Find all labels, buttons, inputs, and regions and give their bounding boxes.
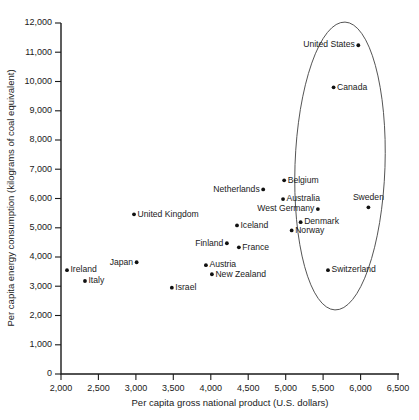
data-point-marker — [225, 241, 229, 245]
data-point: Italy — [83, 275, 105, 285]
data-point-marker — [135, 260, 139, 264]
data-point-label: Switzerland — [331, 264, 376, 274]
y-tick-label: 12,000 — [24, 17, 52, 27]
data-point-marker — [281, 197, 285, 201]
data-point-label: Norway — [295, 225, 325, 235]
data-point: Sweden — [353, 192, 384, 210]
data-point-marker — [237, 245, 241, 249]
x-tick-label: 2,000 — [50, 383, 73, 393]
data-point: Australia — [281, 193, 320, 203]
y-tick-label: 0 — [47, 368, 52, 378]
y-tick-label: 1,000 — [29, 339, 52, 349]
data-point: Ireland — [65, 264, 97, 274]
x-tick-label: 4,500 — [237, 383, 260, 393]
data-point-marker — [367, 205, 371, 209]
data-point: Netherlands — [213, 184, 265, 194]
y-tick-label: 9,000 — [29, 105, 52, 115]
data-point-marker — [65, 268, 69, 272]
x-tick-label: 5,500 — [312, 383, 335, 393]
data-point-label: Belgium — [288, 175, 319, 185]
data-point-marker — [326, 268, 330, 272]
y-tick-label: 7,000 — [29, 164, 52, 174]
y-tick-label: 3,000 — [29, 281, 52, 291]
axis-lines — [61, 23, 399, 374]
data-point-marker — [316, 207, 320, 211]
x-axis-ticks — [61, 374, 398, 380]
data-point-marker — [299, 220, 303, 224]
data-point-label: Canada — [337, 82, 367, 92]
data-point-label: West Germany — [257, 203, 315, 213]
data-point: Japan — [110, 257, 139, 267]
data-point-marker — [356, 43, 360, 47]
data-point-marker — [210, 272, 214, 276]
x-tick-label: 4,000 — [200, 383, 223, 393]
y-tick-label: 8,000 — [29, 134, 52, 144]
data-point: Israel — [170, 282, 197, 292]
data-point-marker — [332, 85, 336, 89]
chart-canvas: 0 1,000 2,000 3,000 4,000 5,000 6,000 7,… — [0, 0, 419, 420]
data-point-marker — [170, 286, 174, 290]
x-tick-label: 6,000 — [349, 383, 372, 393]
data-point-label: Japan — [110, 257, 134, 267]
data-point: West Germany — [257, 203, 320, 213]
data-point: Canada — [332, 82, 368, 92]
data-point-label: Sweden — [353, 192, 384, 202]
x-tick-label: 6,500 — [387, 383, 410, 393]
data-point-marker — [235, 224, 239, 228]
x-axis-title: Per capita gross national product (U.S. … — [132, 397, 329, 408]
x-tick-label: 3,500 — [162, 383, 185, 393]
data-point-label: France — [242, 242, 269, 252]
data-point-label: Israel — [175, 282, 196, 292]
scatter-chart: 0 1,000 2,000 3,000 4,000 5,000 6,000 7,… — [0, 0, 419, 420]
data-point-label: Finland — [195, 238, 223, 248]
data-point: France — [237, 242, 269, 252]
data-points-layer: United StatesCanadaSwedenBelgiumNetherla… — [65, 39, 384, 291]
data-point: Belgium — [282, 175, 318, 185]
data-point-label: New Zealand — [215, 269, 266, 279]
data-point-marker — [282, 178, 286, 182]
x-axis-tick-labels: 2,000 2,500 3,000 3,500 4,000 4,500 5,00… — [50, 383, 410, 393]
data-point-label: United States — [303, 39, 355, 49]
data-point-marker — [132, 212, 136, 216]
data-point-label: United Kingdom — [138, 209, 199, 219]
data-point-label: Italy — [88, 275, 104, 285]
data-point-label: Australia — [287, 193, 321, 203]
data-point: New Zealand — [210, 269, 266, 279]
data-point-label: Iceland — [240, 220, 268, 230]
y-tick-label: 5,000 — [29, 222, 52, 232]
y-tick-label: 4,000 — [29, 251, 52, 261]
y-tick-label: 6,000 — [29, 193, 52, 203]
y-axis-tick-labels: 0 1,000 2,000 3,000 4,000 5,000 6,000 7,… — [24, 17, 52, 378]
data-point-marker — [290, 228, 294, 232]
data-point: United States — [303, 39, 360, 49]
y-tick-label: 11,000 — [25, 47, 52, 57]
x-tick-label: 2,500 — [87, 383, 110, 393]
x-tick-label: 5,000 — [274, 383, 297, 393]
data-point-marker — [261, 188, 265, 192]
data-point: Finland — [195, 238, 229, 248]
data-point: Switzerland — [326, 264, 376, 274]
y-axis-ticks — [55, 23, 61, 374]
data-point: Norway — [290, 225, 325, 235]
data-point-marker — [204, 263, 208, 267]
y-axis-title: Per capita energy consumption (kilograms… — [5, 69, 16, 326]
data-point-label: Ireland — [70, 264, 96, 274]
data-point: United Kingdom — [132, 209, 199, 219]
x-tick-label: 3,000 — [125, 383, 148, 393]
y-tick-label: 2,000 — [29, 310, 52, 320]
data-point-label: Netherlands — [213, 184, 259, 194]
data-point-marker — [83, 279, 87, 283]
data-point: Iceland — [235, 220, 268, 230]
y-tick-label: 10,000 — [24, 76, 52, 86]
